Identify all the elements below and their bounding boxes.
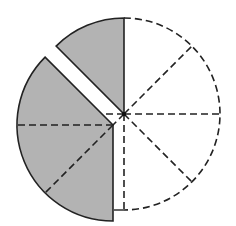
center-point [122,112,126,116]
fraction-circle-diagram [0,0,236,226]
